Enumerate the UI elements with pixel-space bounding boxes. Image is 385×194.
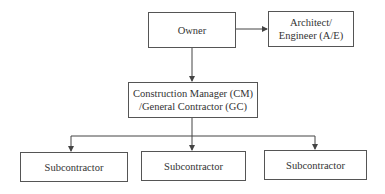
sub1-label: Subcontractor xyxy=(45,161,104,174)
sub2-label: Subcontractor xyxy=(164,160,223,173)
architect-label-line1: Architect/ xyxy=(279,16,343,29)
owner-node: Owner xyxy=(148,12,236,48)
subcontractor-node-3: Subcontractor xyxy=(264,150,367,180)
owner-label: Owner xyxy=(178,24,207,37)
architect-label-line2: Engineer (A/E) xyxy=(279,29,343,42)
construction-manager-node: Construction Manager (CM) /General Contr… xyxy=(128,82,258,118)
sub3-label: Subcontractor xyxy=(286,159,345,172)
subcontractor-node-2: Subcontractor xyxy=(141,151,246,181)
architect-engineer-node: Architect/ Engineer (A/E) xyxy=(268,11,354,47)
subcontractor-node-1: Subcontractor xyxy=(20,152,128,182)
cm-label-line2: /General Contractor (GC) xyxy=(133,100,253,113)
cm-label-line1: Construction Manager (CM) xyxy=(133,87,253,100)
